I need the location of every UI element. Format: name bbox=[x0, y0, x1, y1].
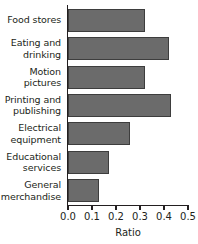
x-axis-tick bbox=[187, 205, 188, 210]
bar bbox=[68, 66, 145, 89]
bar bbox=[68, 151, 109, 174]
bar bbox=[68, 122, 130, 145]
bar-slot bbox=[68, 6, 188, 34]
category-label-line: Eating and bbox=[11, 37, 61, 49]
category-label: Generalmerchandise bbox=[0, 177, 64, 205]
category-label-line: Motion bbox=[29, 66, 61, 78]
category-label-line: services bbox=[23, 162, 61, 174]
category-label: Printing andpublishing bbox=[0, 91, 64, 119]
category-label-line: merchandise bbox=[1, 191, 61, 203]
x-axis-tick-labels: 0.00.10.20.30.40.5 bbox=[52, 211, 198, 225]
bar bbox=[68, 179, 99, 202]
category-label: Motionpictures bbox=[0, 63, 64, 91]
bar-slot bbox=[68, 63, 188, 91]
plot-area bbox=[68, 6, 188, 205]
category-label: Electricalequipment bbox=[0, 120, 64, 148]
category-label: Eating anddrinking bbox=[0, 34, 64, 62]
category-label-line: Printing and bbox=[5, 94, 61, 106]
category-label: Food stores bbox=[0, 6, 64, 34]
bar-slot bbox=[68, 91, 188, 119]
x-axis-tick bbox=[163, 205, 164, 210]
bar-slot bbox=[68, 34, 188, 62]
category-label-line: equipment bbox=[10, 134, 61, 146]
category-label-line: Educational bbox=[6, 151, 61, 163]
bar bbox=[68, 94, 171, 117]
x-axis-line bbox=[68, 205, 188, 206]
category-label-line: publishing bbox=[13, 105, 61, 117]
category-axis-labels: Food storesEating anddrinkingMotionpictu… bbox=[0, 6, 64, 205]
x-axis-title: Ratio bbox=[68, 227, 188, 239]
bar bbox=[68, 37, 169, 60]
x-axis-tick bbox=[115, 205, 116, 210]
bars-group bbox=[68, 6, 188, 205]
category-label-line: drinking bbox=[23, 49, 61, 61]
category-label-line: Food stores bbox=[7, 14, 61, 26]
x-axis-tick-label: 0.5 bbox=[172, 211, 198, 223]
category-label: Educationalservices bbox=[0, 148, 64, 176]
bar-chart: Food storesEating anddrinkingMotionpictu… bbox=[0, 0, 198, 244]
bar bbox=[68, 9, 145, 32]
x-axis-tick bbox=[91, 205, 92, 210]
category-label-line: General bbox=[24, 179, 61, 191]
bar-slot bbox=[68, 120, 188, 148]
category-label-line: pictures bbox=[24, 77, 61, 89]
x-axis-tick bbox=[67, 205, 68, 210]
x-axis-tick bbox=[139, 205, 140, 210]
category-label-line: Electrical bbox=[18, 122, 61, 134]
bar-slot bbox=[68, 177, 188, 205]
bar-slot bbox=[68, 148, 188, 176]
